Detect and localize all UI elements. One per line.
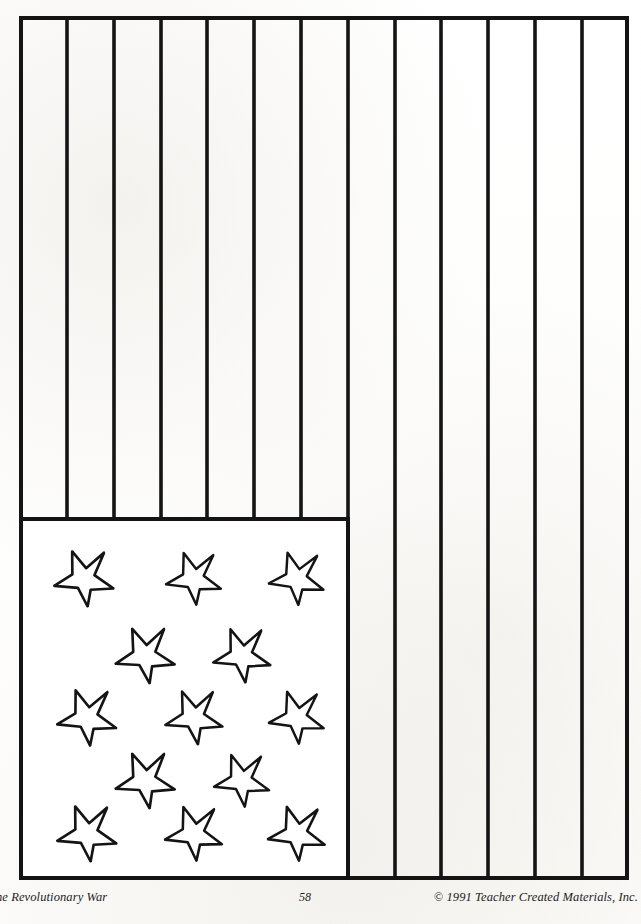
flag-outline-drawing [19, 16, 629, 880]
footer-book-title: he Revolutionary War [0, 890, 107, 905]
copyright-icon: © [434, 890, 443, 904]
flag-figure [19, 16, 629, 880]
footer-copyright: © 1991 Teacher Created Materials, Inc. [434, 890, 638, 905]
footer-copyright-text: 1991 Teacher Created Materials, Inc. [446, 890, 638, 904]
page-footer: he Revolutionary War 58 © 1991 Teacher C… [0, 884, 641, 912]
footer-page-number: 58 [299, 890, 311, 905]
